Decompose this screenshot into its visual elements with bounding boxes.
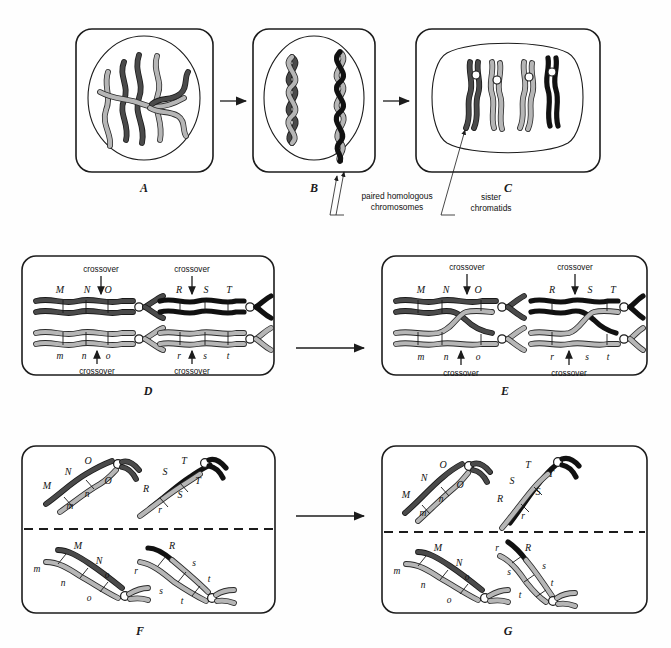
crossover-label-e-bottom-right: crossover (551, 369, 587, 378)
gene-g-bl-o: o (465, 572, 470, 582)
panel-label-b: B (309, 181, 318, 195)
gene-g-br-s2: s (507, 567, 511, 577)
panel-c: C (416, 29, 600, 195)
gene-g-tl-m2: m (420, 508, 427, 518)
gene-f-tl-o2: O (104, 475, 111, 486)
gene-e-lower-r: r (550, 352, 554, 362)
gene-g-br-r: R (524, 542, 531, 553)
gene-f-bl-n2: n (61, 578, 66, 588)
crossover-label-e-bottom-left: crossover (443, 369, 479, 378)
gene-f-bl-m2: m (34, 564, 41, 574)
gene-e-lower-s: s (585, 352, 589, 362)
gene-d-upper-s: S (204, 284, 209, 295)
gene-e-upper-r: R (548, 284, 555, 295)
gene-f-tl-o: O (84, 455, 91, 466)
panel-label-f: F (135, 624, 144, 638)
gene-f-br-r2: r (134, 566, 138, 576)
callout-sister-chromatids-line2: chromatids (471, 203, 512, 213)
crossover-label-e-top-left: crossover (449, 263, 485, 272)
gene-f-bl-o: o (105, 570, 110, 580)
gene-g-tl-o2: O (456, 479, 463, 490)
gene-g-tl-o: O (439, 459, 446, 470)
gene-f-tl-n: N (64, 466, 73, 477)
gene-d-upper-r: R (175, 284, 182, 295)
crossover-label-d-bottom-right: crossover (174, 367, 210, 376)
gene-g-bl-n2: n (421, 580, 426, 590)
gene-g-tr-s2: S (536, 486, 541, 497)
gene-e-upper-m: M (416, 284, 426, 295)
figure-canvas: A B paired homologous chromosomes (0, 0, 671, 648)
gene-d-upper-n: N (83, 284, 92, 295)
gene-f-tl-n2: n (85, 489, 90, 499)
panel-label-c: C (504, 181, 513, 195)
gene-f-bl-m: M (73, 540, 83, 551)
gene-g-br-r2: r (495, 543, 499, 553)
gene-g-bl-o2: o (447, 595, 452, 605)
gene-g-bl-m: M (433, 542, 443, 553)
gene-f-br-t: t (208, 574, 211, 584)
gene-d-lower-t: t (227, 351, 230, 361)
gene-f-tr-r2: r (158, 505, 162, 515)
gene-g-br-s: s (542, 561, 546, 571)
chromosome-pair-1-panel-b (288, 57, 295, 143)
panel-g: M N O O n m R S T T S r (382, 446, 647, 638)
gene-f-bl-n: N (95, 555, 104, 566)
gene-e-upper-o: O (474, 284, 481, 295)
crossover-label-d-top-left: crossover (83, 265, 119, 274)
gene-d-lower-o: o (106, 351, 111, 361)
gene-g-tr-r: R (496, 493, 503, 504)
gene-e-lower-t: t (607, 352, 610, 362)
gene-g-tr-r2: r (521, 511, 525, 521)
gene-f-bl-o2: o (87, 593, 92, 603)
callout-paired-homologous: paired homologous chromosomes (330, 172, 433, 215)
gene-e-lower-m: m (418, 352, 425, 362)
gene-g-tl-m: M (401, 489, 411, 500)
gene-d-lower-s: s (203, 351, 207, 361)
gene-e-lower-n: n (444, 352, 449, 362)
panel-b: B (253, 29, 375, 195)
callout-paired-homologous-line2: chromosomes (371, 202, 424, 212)
gene-g-tl-n2: n (439, 494, 444, 504)
panel-e: crossover M N O (382, 256, 647, 398)
gene-d-upper-o: O (104, 284, 111, 295)
gene-d-lower-r: r (177, 351, 181, 361)
gene-f-br-s2: s (159, 586, 163, 596)
gene-d-upper-m: M (55, 284, 65, 295)
gene-f-tr-s: S (163, 466, 168, 477)
gene-f-tl-m: M (42, 480, 52, 491)
gene-g-br-t2: t (519, 590, 522, 600)
crossover-label-d-bottom-left: crossover (79, 367, 115, 376)
gene-e-upper-s: S (588, 284, 593, 295)
panel-label-g: G (504, 624, 513, 638)
gene-f-tr-r: R (142, 483, 149, 494)
gene-f-br-t2: t (181, 596, 184, 606)
panel-f: M N O O n m R S T T S r (22, 446, 275, 638)
gene-g-tr-s: S (510, 475, 515, 486)
gene-d-lower-m: m (57, 351, 64, 361)
crossover-label-e-top-right: crossover (557, 263, 593, 272)
panel-a: A (76, 29, 213, 195)
gene-d-lower-n: n (82, 351, 87, 361)
gene-g-bl-m2: m (394, 566, 401, 576)
gene-g-bl-n: N (455, 557, 464, 568)
gene-f-br-r: R (168, 540, 175, 551)
panel-label-a: A (139, 181, 148, 195)
panel-d: crossover M N O (22, 256, 274, 398)
gene-f-tr-s2: S (178, 489, 183, 500)
gene-e-lower-o: o (476, 352, 481, 362)
callout-sister-chromatids-line1: sister (481, 192, 501, 202)
callout-paired-homologous-line1: paired homologous (361, 191, 432, 201)
gene-g-br-t: t (551, 578, 554, 588)
gene-f-tl-m2: m (67, 501, 74, 511)
gene-g-tl-n: N (420, 472, 429, 483)
panel-label-e: E (500, 384, 509, 398)
crossover-label-d-top-right: crossover (174, 265, 210, 274)
panel-label-d: D (143, 384, 153, 398)
gene-e-upper-n: N (442, 284, 451, 295)
gene-f-br-s: s (192, 558, 196, 568)
